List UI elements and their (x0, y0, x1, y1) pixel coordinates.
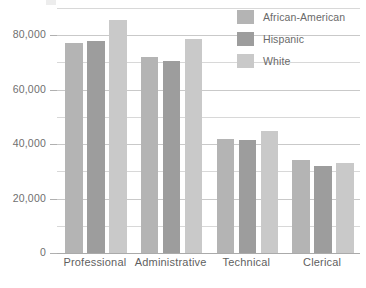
legend: African-American Hispanic White (237, 6, 366, 72)
legend-label-hispanic: Hispanic (263, 33, 304, 45)
bar[interactable] (185, 39, 203, 253)
legend-swatch-hispanic (237, 32, 254, 46)
bar-group (141, 8, 203, 253)
bar-group (65, 8, 127, 253)
x-axis-category-label: Professional (57, 256, 133, 268)
y-axis-label: 40,000 (0, 137, 46, 149)
bar[interactable] (109, 20, 127, 253)
cropped-text-artifact (46, 0, 56, 5)
y-axis-tick (50, 199, 57, 200)
bar[interactable] (261, 131, 279, 254)
bar[interactable] (239, 140, 257, 253)
x-axis-category-label: Technical (209, 256, 285, 268)
bar[interactable] (87, 41, 105, 253)
y-axis-tick (50, 90, 57, 91)
legend-label-african-american: African-American (263, 11, 345, 23)
x-axis-line (57, 253, 360, 254)
y-axis-tick (50, 253, 57, 254)
legend-item-0[interactable]: African-American (237, 6, 366, 28)
y-axis-label: 0 (0, 246, 46, 258)
legend-label-white: White (263, 55, 290, 67)
y-axis-label: 20,000 (0, 192, 46, 204)
x-axis-category-label: Administrative (133, 256, 209, 268)
bar[interactable] (141, 57, 159, 253)
bar[interactable] (314, 166, 332, 253)
y-axis-label: 80,000 (0, 28, 46, 40)
bar[interactable] (292, 160, 310, 253)
bar-chart: 020,00040,00060,00080,000ProfessionalAdm… (0, 0, 366, 288)
x-axis-category-label: Clerical (284, 256, 360, 268)
legend-swatch-african-american (237, 10, 254, 24)
bar[interactable] (163, 61, 181, 253)
legend-swatch-white (237, 54, 254, 68)
y-axis-tick (50, 144, 57, 145)
bar[interactable] (65, 43, 83, 253)
bar[interactable] (217, 139, 235, 253)
y-axis-label: 60,000 (0, 83, 46, 95)
y-axis-tick (50, 35, 57, 36)
bar[interactable] (336, 163, 354, 253)
legend-item-1[interactable]: Hispanic (237, 28, 366, 50)
legend-item-2[interactable]: White (237, 50, 366, 72)
